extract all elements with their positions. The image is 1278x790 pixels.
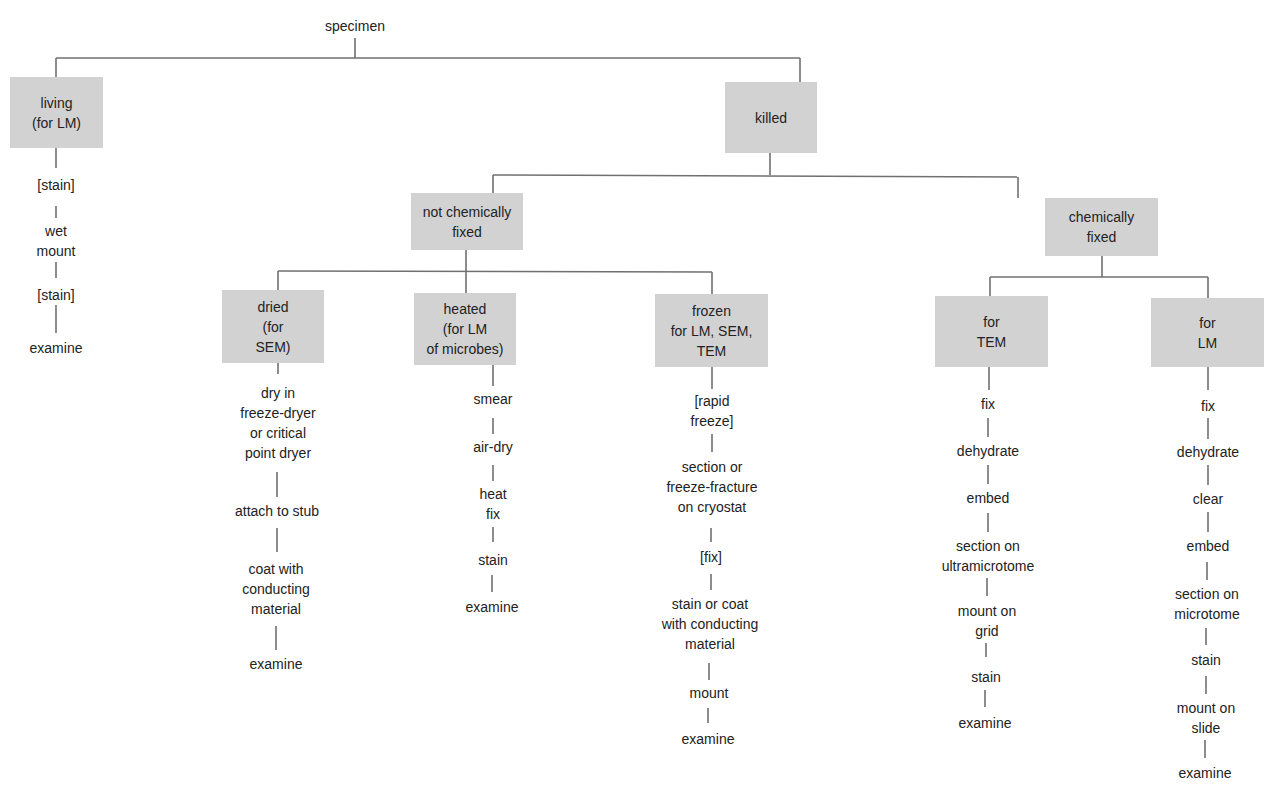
step-heated-heat-fix: heat fix xyxy=(479,484,506,524)
step-dried-attach-to-stub: attach to stub xyxy=(235,501,319,521)
step-lm-fix: fix xyxy=(1201,396,1215,416)
step-lm-clear: clear xyxy=(1193,489,1223,509)
step-frozen-stain-or-coat: stain or coat with conducting material xyxy=(662,594,759,654)
step-frozen-section: section or freeze-fracture on cryostat xyxy=(666,457,757,517)
step-living-stain-2: [stain] xyxy=(37,285,74,305)
node-dried: dried (for SEM) xyxy=(222,290,324,363)
node-frozen: frozen for LM, SEM, TEM xyxy=(655,294,768,367)
node-chemically-fixed: chemically fixed xyxy=(1045,198,1158,256)
step-frozen-rapid-freeze: [rapid freeze] xyxy=(691,391,734,431)
step-lm-embed: embed xyxy=(1187,536,1230,556)
step-living-examine: examine xyxy=(30,338,83,358)
step-lm-dehydrate: dehydrate xyxy=(1177,442,1239,462)
step-tem-stain: stain xyxy=(971,667,1001,687)
step-frozen-examine: examine xyxy=(682,729,735,749)
step-dried-dry-in-dryer: dry in freeze-dryer or critical point dr… xyxy=(240,383,315,463)
step-heated-smear: smear xyxy=(474,389,513,409)
node-specimen: specimen xyxy=(325,16,385,36)
node-not-chemically-fixed: not chemically fixed xyxy=(411,193,523,250)
step-tem-embed: embed xyxy=(967,488,1010,508)
step-lm-section: section on microtome xyxy=(1174,584,1239,624)
step-tem-section: section on ultramicrotome xyxy=(942,536,1035,576)
step-frozen-mount: mount xyxy=(690,683,729,703)
step-living-wet-mount: wet mount xyxy=(37,221,76,261)
step-heated-stain: stain xyxy=(478,550,508,570)
step-heated-air-dry: air-dry xyxy=(473,437,513,457)
step-dried-examine: examine xyxy=(250,654,303,674)
step-living-stain-1: [stain] xyxy=(37,175,74,195)
step-dried-coat: coat with conducting material xyxy=(242,559,310,619)
step-heated-examine: examine xyxy=(466,597,519,617)
node-for-tem: for TEM xyxy=(935,296,1048,367)
node-heated: heated (for LM of microbes) xyxy=(414,293,516,365)
node-for-lm: for LM xyxy=(1151,298,1264,367)
step-tem-mount-on-grid: mount on grid xyxy=(958,601,1016,641)
step-frozen-fix: [fix] xyxy=(700,547,722,567)
connector-lines xyxy=(0,0,1278,790)
node-living: living (for LM) xyxy=(10,77,103,148)
step-tem-examine: examine xyxy=(959,713,1012,733)
node-killed: killed xyxy=(725,82,817,153)
step-lm-examine: examine xyxy=(1179,763,1232,783)
step-tem-dehydrate: dehydrate xyxy=(957,441,1019,461)
step-tem-fix: fix xyxy=(981,394,995,414)
step-lm-stain: stain xyxy=(1191,650,1221,670)
step-lm-mount-on-slide: mount on slide xyxy=(1177,698,1235,738)
